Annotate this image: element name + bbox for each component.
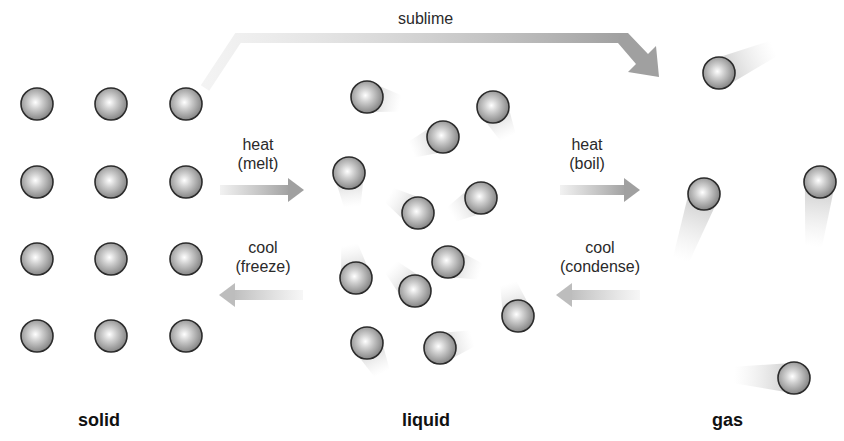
liquid-particle [502,300,534,332]
melt-line1: heat [228,135,288,154]
solid-particle [21,243,53,275]
liquid-particle [399,275,431,307]
solid-particle [21,320,53,352]
solid-particle [21,88,53,120]
solid-particle [170,320,202,352]
condense-arrow [556,283,640,307]
liquid-particle [351,327,383,359]
gas-particle [703,57,735,89]
boil-line1: heat [557,135,617,154]
liquid-particle [351,81,383,113]
sublime-arrow [205,33,659,88]
liquid-particle [402,197,434,229]
solid-particle [95,166,127,198]
boil-arrow [560,178,640,202]
liquid-particle [340,262,372,294]
state-label-gas: gas [712,410,743,431]
solid-particle [95,320,127,352]
particles [21,57,836,394]
liquid-particle [477,91,509,123]
liquid-particle [424,332,456,364]
freeze-line2: (freeze) [223,257,303,276]
freeze-label: cool (freeze) [223,238,303,276]
solid-particle [170,88,202,120]
freeze-arrow [219,283,303,307]
freeze-line1: cool [223,238,303,257]
gas-particle [688,178,720,210]
condense-line1: cool [552,238,648,257]
melt-line2: (melt) [228,154,288,173]
liquid-particle [432,246,464,278]
boil-label: heat (boil) [557,135,617,173]
condense-label: cool (condense) [552,238,648,276]
state-label-solid: solid [78,410,120,431]
solid-particle [170,243,202,275]
liquid-particle [427,121,459,153]
sublime-label: sublime [398,9,453,28]
solid-particle [21,166,53,198]
gas-particle [804,166,836,198]
solid-particle [95,88,127,120]
states-of-matter-diagram [0,0,844,441]
state-label-liquid: liquid [402,410,450,431]
liquid-particle [333,157,365,189]
solid-particle [95,243,127,275]
gas-particle [778,362,810,394]
melt-arrow [220,178,304,202]
liquid-particle [465,182,497,214]
melt-label: heat (melt) [228,135,288,173]
condense-line2: (condense) [552,257,648,276]
boil-line2: (boil) [557,154,617,173]
solid-particle [170,166,202,198]
